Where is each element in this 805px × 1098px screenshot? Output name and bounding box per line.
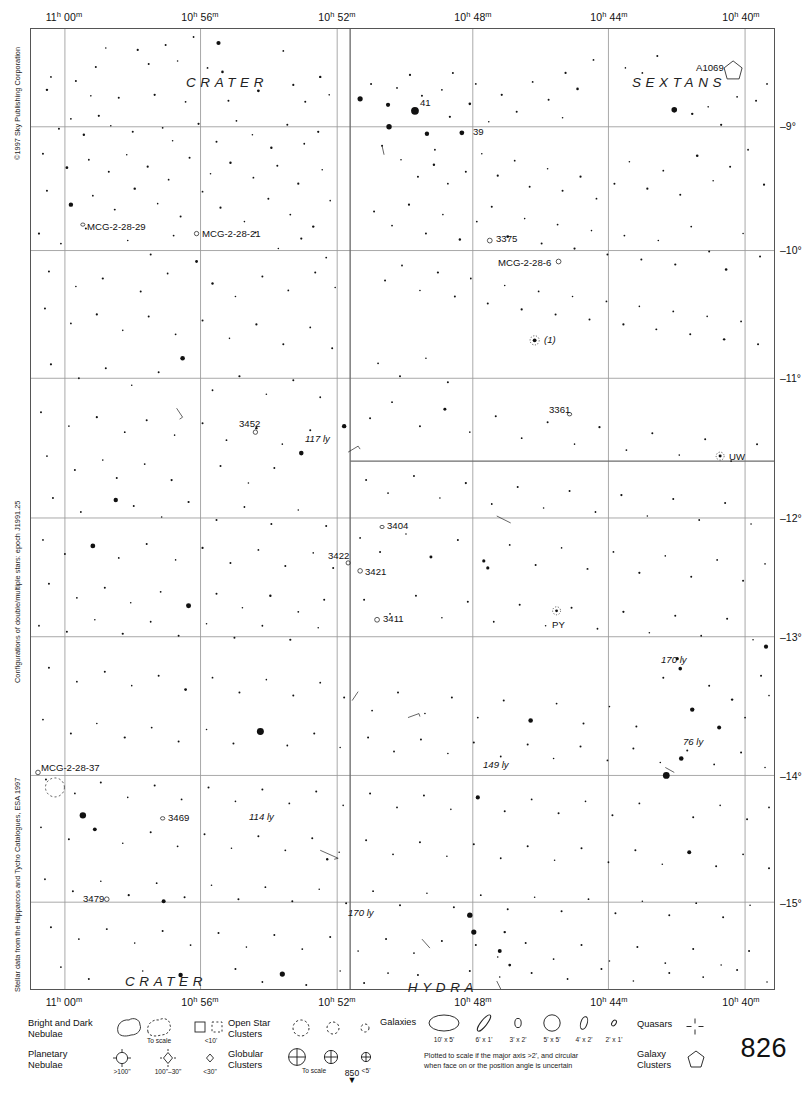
legend-pn-line2: Nebulae: [28, 1060, 63, 1070]
galaxy-label-mcg-2-28-6: MCG-2-28-6: [498, 257, 551, 268]
galaxy-label-mcg-2-28-21: MCG-2-28-21: [202, 228, 261, 239]
adjacent-chart-pointer[interactable]: 850 ▼: [345, 1068, 359, 1084]
distance-label-117ly: 117 ly: [305, 433, 330, 444]
quasar-symbol: [685, 1017, 707, 1037]
dec-tick-minus9: –9°: [780, 120, 796, 132]
galaxy-cluster-symbol: [724, 61, 742, 79]
variable-star-symbols: [530, 336, 724, 615]
constellation-label-sextans: SEXTANS: [632, 75, 726, 90]
legend-gcl-line2: Clusters: [637, 1060, 671, 1070]
constellation-label-crater-bottom: CRATER: [125, 974, 207, 989]
legend-galaxies-note: Plotted to scale if the major axis >2', …: [424, 1051, 578, 1070]
legend-osc-line2: Clusters: [228, 1029, 262, 1039]
starfield-svg: [31, 29, 774, 989]
galaxy-label-3422: 3422: [328, 550, 349, 561]
legend-open-clusters-title: Open Star Clusters: [228, 1018, 270, 1039]
legend-galaxies-note-line2: when face on or the position angle is un…: [424, 1061, 572, 1070]
star-label-py: PY: [552, 619, 565, 630]
double-star-markers: [177, 146, 675, 989]
copyright-text: ©1997 Sky Publishing Corporation: [13, 47, 22, 160]
coordinate-grid: [31, 29, 774, 989]
star-label-uw: UW: [729, 451, 745, 462]
legend-pn-line1: Planetary: [28, 1049, 67, 1059]
open-cluster-symbols: [289, 1017, 384, 1041]
star-label-multiple-1: (1): [544, 334, 556, 345]
ra-tick-top-1048: 10h 48m: [454, 11, 491, 23]
galaxy-label-3361: 3361: [549, 404, 570, 415]
legend-bdn-caption-to-scale: To scale: [147, 1037, 171, 1044]
dec-tick-minus10: –10°: [780, 244, 802, 256]
galaxy-label-3452: 3452: [239, 418, 260, 429]
galaxy-label-3411: 3411: [383, 613, 404, 624]
ra-tick-top-1044: 10h 44m: [590, 11, 627, 23]
dec-tick-minus13: –13°: [780, 631, 802, 643]
legend-bright-dark-nebulae-title: Bright and Dark Nebulae: [28, 1018, 93, 1039]
legend-pn-caption-mid: 100"–30": [155, 1068, 182, 1075]
galaxy-cluster-symbol: [685, 1049, 709, 1073]
legend-bdn-caption-small: <10': [205, 1037, 217, 1044]
galaxy-cluster-label-a1069: A1069: [696, 62, 724, 73]
ra-tick-top-1056: 10h 56m: [181, 11, 218, 23]
epoch-note-text: Configurations of double/multiple stars:…: [13, 501, 22, 683]
chart-legend: Bright and Dark Nebulae To scale <10' Pl…: [0, 1005, 805, 1098]
legend-galaxy-size-0: 10' x 5': [434, 1036, 454, 1043]
constellation-boundaries: [350, 29, 774, 989]
distance-label-76ly: 76 ly: [683, 736, 703, 747]
distance-label-170ly-lower: 170 ly: [348, 907, 374, 918]
legend-pn-caption-small: <30": [203, 1068, 217, 1075]
legend-galaxy-size-2: 3' x 2': [510, 1036, 527, 1043]
ra-tick-top-1040: 10h 40m: [722, 11, 759, 23]
legend-galaxies-title: Galaxies: [380, 1017, 416, 1028]
dec-tick-minus11: –11°: [780, 372, 801, 384]
data-source-text: Stellar data from the Hipparcos and Tych…: [13, 778, 22, 992]
dec-tick-minus15: –15°: [780, 897, 802, 909]
galaxy-symbols-legend: [426, 1011, 626, 1035]
star-label-39: 39: [473, 126, 484, 137]
dec-tick-minus14: –14°: [780, 770, 802, 782]
constellation-label-crater-top: CRATER: [186, 75, 268, 90]
star-points: [38, 36, 770, 986]
legend-galaxies-note-line1: Plotted to scale if the major axis >2', …: [424, 1051, 578, 1060]
distance-label-149ly: 149 ly: [483, 759, 509, 770]
galaxy-symbols: [36, 223, 572, 901]
legend-bdn-line2: Nebulae: [28, 1029, 63, 1039]
legend-quasars-title: Quasars: [637, 1019, 672, 1030]
legend-galaxy-size-4: 4' x 2': [576, 1036, 593, 1043]
legend-galaxy-clusters-title: Galaxy Clusters: [637, 1049, 671, 1070]
galaxy-label-mcg-2-28-29: MCG-2-28-29: [87, 221, 146, 232]
galaxy-label-3479: 3479: [83, 893, 104, 904]
star-label-41: 41: [420, 97, 431, 108]
legend-gc-caption-small: <5': [362, 1067, 371, 1074]
star-chart-page: ©1997 Sky Publishing Corporation Configu…: [0, 0, 805, 1098]
galaxy-label-mcg-2-28-37: MCG-2-28-37: [41, 762, 100, 773]
legend-gcl-line1: Galaxy: [637, 1049, 666, 1059]
distance-label-114ly: 114 ly: [249, 811, 274, 822]
dec-tick-minus12: –12°: [780, 512, 802, 524]
galaxy-label-3404: 3404: [387, 520, 408, 531]
legend-gc-line2: Clusters: [228, 1060, 262, 1070]
legend-bdn-line1: Bright and Dark: [28, 1018, 93, 1028]
legend-galaxy-size-5: 2' x 1': [606, 1036, 623, 1043]
legend-osc-line1: Open Star: [228, 1018, 270, 1028]
constellation-label-hydra: HYDRA: [408, 980, 478, 995]
legend-pn-caption-large: >100": [113, 1068, 130, 1075]
legend-gc-line1: Globular: [228, 1049, 263, 1059]
legend-globular-clusters-title: Globular Clusters: [228, 1049, 263, 1070]
ra-tick-top-1052: 10h 52m: [318, 11, 355, 23]
arrow-down-icon: ▼: [345, 1077, 359, 1084]
distance-label-170ly-upper: 170 ly: [661, 654, 687, 665]
sky-chart-plot[interactable]: CRATER SEXTANS CRATER HYDRA 41 39 UW PY …: [30, 28, 775, 990]
ra-tick-top-1100: 11h 00m: [46, 11, 83, 23]
legend-galaxy-size-3: 5' x 5': [544, 1036, 561, 1043]
legend-galaxy-size-1: 6' x 1': [476, 1036, 493, 1043]
galaxy-label-3375: 3375: [496, 233, 517, 244]
legend-gc-caption-to-scale: To scale: [302, 1067, 326, 1074]
legend-planetary-nebulae-title: Planetary Nebulae: [28, 1049, 67, 1070]
galaxy-label-3469: 3469: [168, 812, 189, 823]
galaxy-label-3421: 3421: [365, 566, 386, 577]
chart-number: 826: [740, 1033, 787, 1064]
